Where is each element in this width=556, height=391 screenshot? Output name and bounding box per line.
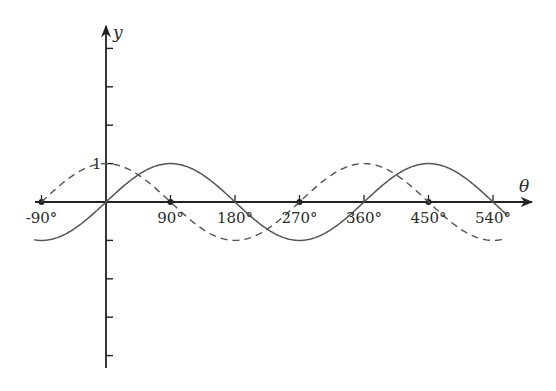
- x-tick-label: 450°: [410, 209, 446, 227]
- y-axis-label: y: [112, 22, 123, 42]
- x-tick-label: 540°: [475, 209, 511, 227]
- x-axis-label-theta: θ: [519, 176, 529, 196]
- x-tick-label: 90°: [157, 209, 184, 227]
- x-tick-label: 180°: [217, 209, 253, 227]
- sine-cosine-chart: -90°90°180°270°360°450°540° 1 y θ: [0, 0, 556, 391]
- x-tick-label: 360°: [346, 209, 382, 227]
- x-tick-label: -90°: [26, 209, 58, 227]
- x-tick-label: 270°: [281, 209, 317, 227]
- y-tick-label-1: 1: [92, 155, 102, 173]
- x-axis-tick-labels: -90°90°180°270°360°450°540°: [26, 209, 511, 227]
